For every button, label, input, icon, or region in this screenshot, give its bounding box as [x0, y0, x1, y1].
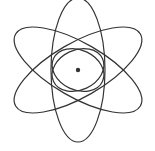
nucleus-dot: [76, 68, 80, 72]
atom-icon: [0, 0, 155, 151]
